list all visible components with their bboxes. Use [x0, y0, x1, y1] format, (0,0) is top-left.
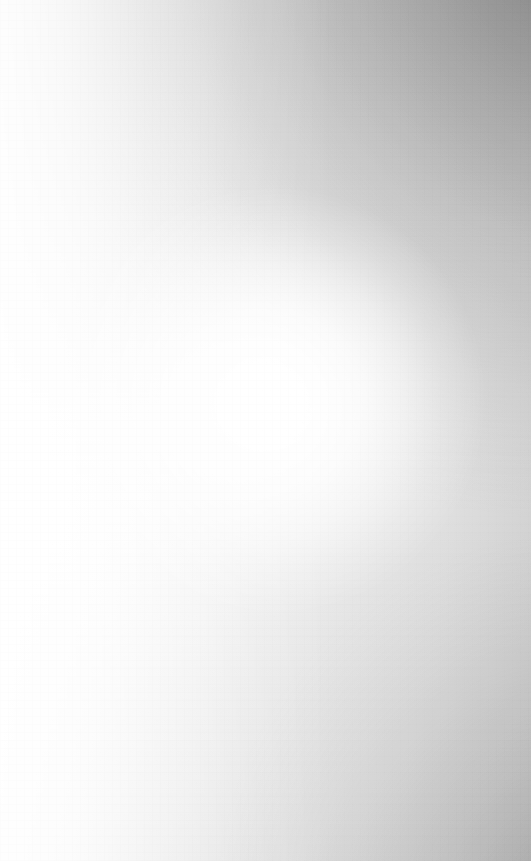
empty-content-area [0, 0, 531, 861]
screen-canvas [0, 0, 531, 861]
